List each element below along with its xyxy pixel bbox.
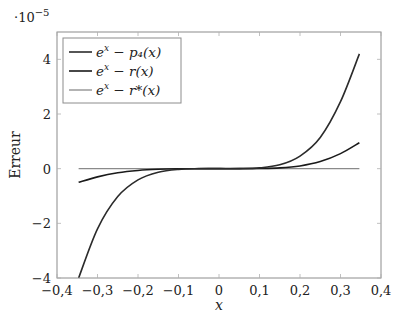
x-tick-label: 0,4 xyxy=(371,283,392,298)
x-axis-label: x xyxy=(215,297,223,313)
error-plot: −0,4−0,3−0,2−0,100,10,20,30,4−4−2024 ·10… xyxy=(0,0,402,322)
x-tick-label: −0,3 xyxy=(82,283,114,298)
x-tick-label: 0,1 xyxy=(249,283,270,298)
x-tick-label: 0 xyxy=(215,283,223,298)
y-tick-label: −4 xyxy=(32,271,51,286)
y-axis-label: Erreur xyxy=(7,131,23,179)
x-tick-label: −0,1 xyxy=(163,283,195,298)
y-tick-label: −2 xyxy=(32,216,51,231)
x-tick-label: 0,2 xyxy=(290,283,311,298)
series-line xyxy=(79,143,360,183)
y-tick-label: 2 xyxy=(43,107,51,122)
y-scale-annotation: ·10−5 xyxy=(14,7,49,25)
y-tick-label: 0 xyxy=(43,162,51,177)
x-tick-label: 0,3 xyxy=(330,283,351,298)
y-tick-label: 4 xyxy=(43,52,51,67)
legend: ex − p₄(x)ex − r(x)ex − r*(x) xyxy=(63,38,181,103)
x-tick-label: −0,2 xyxy=(122,283,154,298)
